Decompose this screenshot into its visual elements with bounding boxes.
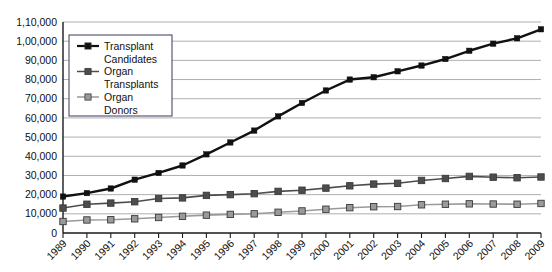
data-point-1997: [251, 190, 257, 196]
y-axis-label-20000: 20,000: [25, 188, 57, 200]
data-point-1993: [155, 214, 161, 220]
x-axis-label-2007: 2007: [474, 237, 499, 262]
legend-marker-1: [85, 68, 91, 74]
data-point-1999: [299, 208, 305, 214]
x-axis-label-1996: 1996: [211, 237, 236, 262]
data-point-1989: [60, 194, 65, 199]
legend-marker-0: [85, 43, 91, 49]
y-axis-label-100000: 1,00,000: [16, 35, 57, 47]
data-point-1989: [60, 205, 66, 211]
x-axis-label-2005: 2005: [426, 237, 451, 262]
chart-canvas: 010,00020,00030,00040,00050,00060,00070,…: [0, 0, 552, 272]
data-point-1995: [203, 212, 209, 218]
x-axis-label-2002: 2002: [355, 237, 380, 262]
data-point-2000: [323, 206, 329, 212]
data-point-2003: [395, 69, 400, 74]
data-point-1998: [275, 114, 280, 119]
legend-label-2-line2: Donors: [104, 104, 138, 116]
data-point-2001: [347, 77, 352, 82]
y-axis-label-70000: 70,000: [25, 92, 57, 104]
data-point-1999: [299, 100, 304, 105]
data-point-2005: [443, 56, 448, 61]
data-point-1992: [132, 216, 138, 222]
data-point-1999: [299, 187, 305, 193]
data-point-2003: [394, 180, 400, 186]
data-point-1997: [251, 211, 257, 217]
y-axis-label-0: 0: [51, 227, 57, 239]
data-point-2008: [514, 175, 520, 181]
data-point-2002: [371, 181, 377, 187]
data-point-2000: [323, 185, 329, 191]
x-axis-label-2009: 2009: [522, 237, 547, 262]
data-point-1991: [108, 200, 114, 206]
y-axis-label-60000: 60,000: [25, 112, 57, 124]
data-point-2002: [371, 204, 377, 210]
data-point-1990: [84, 190, 89, 195]
data-point-2009: [538, 174, 544, 180]
x-axis-label-1992: 1992: [116, 237, 141, 262]
x-axis-label-1991: 1991: [92, 237, 117, 262]
data-point-1995: [204, 152, 209, 157]
legend-label-1-line2: Transplants: [104, 78, 158, 90]
data-point-1996: [227, 191, 233, 197]
y-axis-label-50000: 50,000: [25, 131, 57, 143]
x-axis-label-1989: 1989: [44, 237, 69, 262]
y-axis-label-40000: 40,000: [25, 150, 57, 162]
data-point-2005: [442, 175, 448, 181]
data-point-2006: [466, 173, 472, 179]
data-point-2005: [442, 201, 448, 207]
data-point-2000: [323, 88, 328, 93]
data-point-2004: [418, 177, 424, 183]
x-axis-label-1995: 1995: [187, 237, 212, 262]
x-axis-label-1999: 1999: [283, 237, 308, 262]
data-point-2007: [491, 41, 496, 46]
x-axis-label-2008: 2008: [498, 237, 523, 262]
x-axis-label-2004: 2004: [402, 237, 427, 262]
data-point-1992: [132, 199, 138, 205]
data-point-1998: [275, 188, 281, 194]
x-axis-label-1990: 1990: [68, 237, 93, 262]
data-point-2001: [347, 204, 353, 210]
data-point-1989: [60, 218, 66, 224]
data-point-1994: [179, 195, 185, 201]
data-point-2003: [394, 203, 400, 209]
x-axis-label-2006: 2006: [450, 237, 475, 262]
x-axis-label-1993: 1993: [140, 237, 165, 262]
data-point-2004: [418, 202, 424, 208]
y-axis-label-80000: 80,000: [25, 73, 57, 85]
data-point-1993: [156, 170, 161, 175]
legend-label-0-line2: Candidates: [104, 53, 157, 65]
legend-label-2-line1: Organ: [104, 91, 133, 103]
data-point-2006: [467, 48, 472, 53]
data-point-1998: [275, 209, 281, 215]
data-point-1991: [108, 186, 113, 191]
y-axis-label-30000: 30,000: [25, 169, 57, 181]
data-point-2008: [514, 201, 520, 207]
chart-legend: TransplantCandidatesOrganTransplantsOrga…: [69, 35, 172, 116]
x-axis-label-2003: 2003: [379, 237, 404, 262]
data-point-2008: [514, 36, 519, 41]
data-point-1990: [84, 217, 90, 223]
y-axis-label-90000: 90,000: [25, 54, 57, 66]
x-axis-label-1994: 1994: [163, 237, 188, 262]
data-point-2009: [538, 27, 543, 32]
y-axis-label-110000: 1,10,000: [16, 16, 57, 28]
data-point-2007: [490, 201, 496, 207]
data-point-2006: [466, 201, 472, 207]
line-chart: 010,00020,00030,00040,00050,00060,00070,…: [0, 0, 552, 272]
data-point-2007: [490, 174, 496, 180]
x-axis-label-2001: 2001: [331, 237, 356, 262]
x-axis-label-1998: 1998: [259, 237, 284, 262]
data-point-1992: [132, 177, 137, 182]
data-point-1996: [228, 140, 233, 145]
data-point-1997: [252, 128, 257, 133]
data-point-1994: [180, 163, 185, 168]
data-point-2002: [371, 75, 376, 80]
data-point-1991: [108, 217, 114, 223]
x-axis-label-2000: 2000: [307, 237, 332, 262]
legend-marker-2: [85, 94, 91, 100]
data-point-1995: [203, 192, 209, 198]
x-axis-label-1997: 1997: [235, 237, 260, 262]
legend-label-0-line1: Transplant: [104, 40, 153, 52]
y-axis-label-10000: 10,000: [25, 207, 57, 219]
